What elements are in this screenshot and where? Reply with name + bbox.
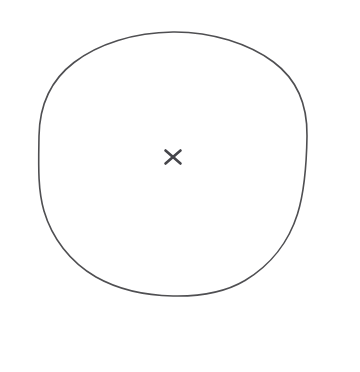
circle-outline	[39, 32, 307, 296]
drawing-canvas	[0, 0, 360, 372]
line-drawing	[0, 0, 360, 372]
center-cross-mark	[166, 151, 181, 164]
